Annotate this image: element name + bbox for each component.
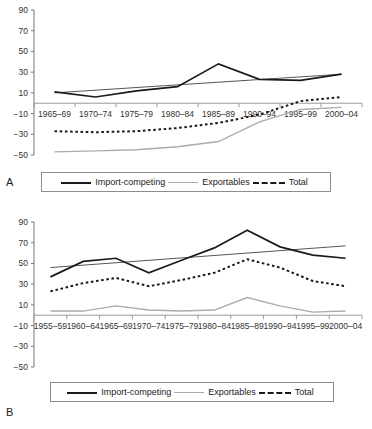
- legend-label-import-competing: Import-competing: [91, 177, 168, 187]
- y-axis-tick-label: 70: [19, 26, 29, 36]
- series-line-solid-light: [50, 298, 345, 313]
- y-axis-tick-label: −50: [14, 362, 29, 372]
- x-axis-tick-label: 1980–84: [198, 321, 231, 331]
- trend-line: [50, 246, 345, 268]
- legend-item-exportables: Exportables: [174, 387, 259, 397]
- series-line-solid-dark: [50, 230, 345, 277]
- legend-item-import-competing: Import-competing: [61, 177, 168, 187]
- legend-label-total: Total: [291, 387, 317, 397]
- legend-swatch-solid-line-icon: [61, 178, 91, 186]
- legend-item-exportables: Exportables: [168, 177, 253, 187]
- x-axis-tick-label: 1960–64: [67, 321, 100, 331]
- x-axis-tick-label: 1975–79: [165, 321, 198, 331]
- legend-label-import-competing: Import-competing: [97, 387, 174, 397]
- y-axis-tick-label: −30: [14, 129, 29, 139]
- legend-swatch-light-line-icon: [174, 388, 204, 396]
- y-axis-tick-label: −10: [14, 109, 29, 119]
- series-line-solid-dark: [55, 64, 342, 97]
- legend-swatch-solid-line-icon: [67, 388, 97, 396]
- y-axis-tick-label: 30: [19, 67, 29, 77]
- legend-label-exportables: Exportables: [198, 177, 253, 187]
- chart-panel-a: 9070503010−10−30−501965–691970–741975–79…: [0, 0, 372, 200]
- x-axis-tick-label: 1975–79: [120, 109, 153, 119]
- x-axis-tick-label: 1985–89: [202, 109, 235, 119]
- x-axis-tick-label: 2000–04: [325, 109, 358, 119]
- x-axis-tick-label: 1995–99: [296, 321, 329, 331]
- y-axis-tick-label: 70: [19, 238, 29, 248]
- chart-a-legend: Import-competing Exportables Total: [41, 172, 331, 192]
- y-axis-tick-label: 10: [19, 300, 29, 310]
- y-axis-tick-label: −30: [14, 341, 29, 351]
- panel-label-b: B: [6, 406, 14, 418]
- x-axis-tick-label: 2000–04: [329, 321, 362, 331]
- chart-panel-b: 9070503010−10−30−501955–591960–641965–69…: [0, 200, 372, 429]
- panel-label-a: A: [6, 176, 14, 188]
- legend-label-exportables: Exportables: [204, 387, 259, 397]
- legend-swatch-dashed-line-icon: [259, 388, 291, 396]
- y-axis-tick-label: 90: [19, 5, 29, 15]
- y-axis-tick-label: 10: [19, 88, 29, 98]
- x-axis-tick-label: 1980–84: [161, 109, 194, 119]
- legend-swatch-light-line-icon: [168, 178, 198, 186]
- chart-a-plot: 9070503010−10−30−501965–691970–741975–79…: [0, 0, 372, 200]
- legend-item-import-competing: Import-competing: [67, 387, 174, 397]
- y-axis-tick-label: −10: [14, 321, 29, 331]
- legend-item-total: Total: [253, 177, 311, 187]
- y-axis-tick-label: 50: [19, 258, 29, 268]
- trend-line: [55, 74, 342, 93]
- y-axis-tick-label: 30: [19, 279, 29, 289]
- x-axis-tick-label: 1990–94: [263, 321, 296, 331]
- x-axis-tick-label: 1965–69: [38, 109, 71, 119]
- x-axis-tick-label: 1955–59: [34, 321, 67, 331]
- x-axis-tick-label: 1985–89: [231, 321, 264, 331]
- chart-b-legend: Import-competing Exportables Total: [50, 382, 334, 402]
- legend-item-total: Total: [259, 387, 317, 397]
- legend-label-total: Total: [285, 177, 311, 187]
- y-axis-tick-label: 50: [19, 46, 29, 56]
- y-axis-tick-label: −50: [14, 150, 29, 160]
- legend-swatch-dashed-line-icon: [253, 178, 285, 186]
- x-axis-tick-label: 1970–74: [79, 109, 112, 119]
- x-axis-tick-label: 1970–74: [132, 321, 165, 331]
- x-axis-tick-label: 1965–69: [99, 321, 132, 331]
- y-axis-tick-label: 90: [19, 217, 29, 227]
